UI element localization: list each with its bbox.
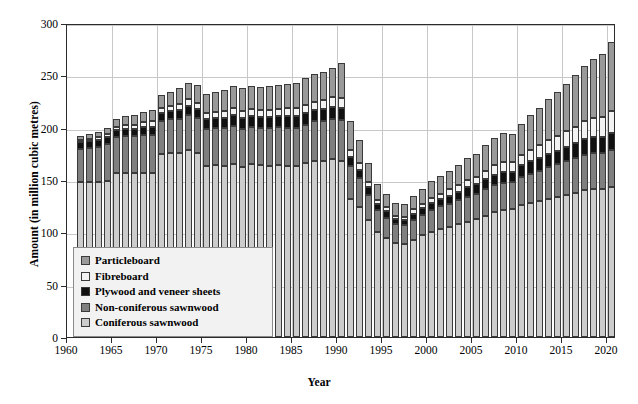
y-tick-mark: [61, 233, 66, 234]
bar-segment: [131, 136, 138, 173]
bar: [302, 25, 309, 337]
x-tick-label: 1990: [325, 344, 348, 356]
bar-segment: [446, 227, 453, 337]
bar-segment: [392, 216, 399, 219]
bar-segment: [536, 158, 543, 171]
bar-segment: [122, 125, 129, 129]
bar-segment: [329, 159, 336, 337]
x-tick-label: 2015: [550, 344, 573, 356]
bar-segment: [77, 136, 84, 140]
y-tick-label: 200: [0, 123, 58, 135]
legend-item: Coniferous sawnwood: [81, 315, 265, 331]
bar-segment: [203, 94, 210, 113]
bar-segment: [473, 154, 480, 177]
bar: [329, 25, 336, 337]
bar-segment: [293, 108, 300, 116]
bar-segment: [464, 222, 471, 337]
legend-item-label: Fibreboard: [95, 271, 149, 282]
bar-segment: [545, 154, 552, 168]
x-tick-label: 2010: [505, 344, 528, 356]
bar-segment: [194, 118, 201, 153]
bar-segment: [554, 92, 561, 136]
bar-segment: [509, 162, 516, 171]
bar-segment: [113, 119, 120, 126]
bar: [374, 25, 381, 337]
bar-segment: [563, 131, 570, 147]
x-tick-label: 1995: [370, 344, 393, 356]
bar-segment: [230, 108, 237, 115]
bar-segment: [113, 130, 120, 137]
bar-segment: [212, 92, 219, 112]
bar-segment: [374, 204, 381, 210]
bar-segment: [212, 118, 219, 127]
bar-segment: [158, 108, 165, 113]
bar-segment: [383, 218, 390, 238]
legend-item-label: Plywood and veneer sheets: [95, 286, 220, 297]
bar-segment: [599, 54, 606, 117]
bar: [590, 25, 597, 337]
bar-segment: [374, 210, 381, 232]
bar-segment: [455, 224, 462, 337]
bar-segment: [581, 155, 588, 191]
bar: [419, 25, 426, 337]
bar-segment: [455, 165, 462, 185]
bar-segment: [347, 121, 354, 149]
bar-segment: [464, 187, 471, 196]
y-tick-label: 300: [0, 18, 58, 30]
bar-segment: [383, 207, 390, 211]
bar-segment: [590, 189, 597, 337]
bar-segment: [347, 157, 354, 166]
bar-segment: [248, 127, 255, 165]
bar-segment: [230, 126, 237, 165]
bar-segment: [464, 197, 471, 222]
bar-segment: [302, 78, 309, 104]
bar-segment: [419, 215, 426, 236]
bar: [482, 25, 489, 337]
bar-segment: [527, 161, 534, 174]
bar-segment: [266, 86, 273, 110]
bar: [275, 25, 282, 337]
bar: [545, 25, 552, 337]
y-tick-label: 100: [0, 227, 58, 239]
bar-segment: [365, 187, 372, 194]
bar: [383, 25, 390, 337]
bar-segment: [338, 98, 345, 107]
bar-segment: [491, 185, 498, 212]
bar-segment: [176, 119, 183, 152]
bar-segment: [248, 109, 255, 116]
bar-segment: [410, 214, 417, 220]
bar-segment: [392, 219, 399, 224]
bar-segment: [167, 106, 174, 111]
bar-segment: [437, 194, 444, 199]
bar-segment: [158, 95, 165, 108]
bar-segment: [320, 121, 327, 161]
bar-segment: [275, 165, 282, 337]
bar: [284, 25, 291, 337]
bar-segment: [437, 206, 444, 229]
bar-segment: [545, 199, 552, 337]
x-tick-mark: [246, 338, 247, 343]
bar-segment: [212, 128, 219, 166]
bar-segment: [77, 142, 84, 148]
bar-segment: [104, 144, 111, 181]
bar-segment: [599, 137, 606, 153]
bar-segment: [239, 88, 246, 111]
bar-segment: [266, 128, 273, 167]
bar-segment: [284, 128, 291, 167]
bar-segment: [419, 208, 426, 214]
bar-segment: [221, 90, 228, 111]
bar-segment: [185, 99, 192, 105]
x-tick-label: 1975: [190, 344, 213, 356]
bar-segment: [545, 140, 552, 154]
x-tick-label: 1965: [100, 344, 123, 356]
bar-segment: [194, 103, 201, 109]
bar-segment: [536, 145, 543, 158]
y-tick-mark: [61, 76, 66, 77]
bar: [446, 25, 453, 337]
bar-segment: [257, 87, 264, 110]
bar-segment: [338, 108, 345, 121]
bar: [599, 25, 606, 337]
bar: [428, 25, 435, 337]
legend-item: Particleboard: [81, 253, 265, 269]
bar-segment: [302, 125, 309, 164]
